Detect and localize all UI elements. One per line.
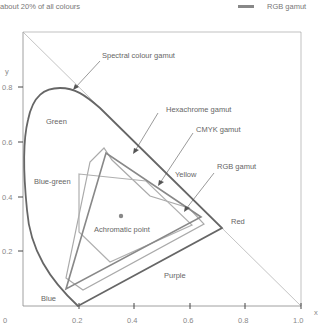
achromatic-point-marker — [119, 214, 123, 218]
y-tick-0.2: 0.2 — [2, 247, 12, 256]
x-tick-0.4: 0.4 — [127, 316, 137, 325]
label-spectral: Spectral colour gamut — [102, 51, 176, 60]
x-tick-0.2: 0.2 — [72, 316, 82, 325]
arrowheads — [73, 84, 190, 212]
label-cmyk: CMYK gamut — [196, 125, 242, 134]
label-achromatic: Achromatic point — [94, 225, 151, 234]
label-hexachrome: Hexachrome gamut — [166, 105, 232, 114]
y-tick-0.6: 0.6 — [2, 138, 12, 147]
x-tick-0.6: 0.6 — [183, 316, 193, 325]
y-tick-0.8: 0.8 — [2, 83, 12, 92]
chromaticity-chart: 0.8 0.6 0.4 0.2 y 0 0.2 0.4 0.6 0.8 1.0 … — [0, 0, 318, 331]
label-purple: Purple — [164, 271, 186, 280]
x-tick-1.0: 1.0 — [293, 316, 303, 325]
label-yellow: Yellow — [175, 170, 197, 179]
label-red: Red — [231, 217, 245, 226]
x-tick-0: 0 — [3, 316, 7, 325]
label-green: Green — [46, 117, 67, 126]
y-axis-label: y — [5, 67, 9, 76]
label-rgb: RGB gamut — [217, 162, 257, 171]
y-tick-0.4: 0.4 — [2, 193, 12, 202]
x-axis-label: x — [314, 308, 318, 317]
y-ticks — [18, 87, 23, 251]
x-tick-0.8: 0.8 — [238, 316, 248, 325]
label-blue-green: Blue-green — [34, 177, 71, 186]
label-blue: Blue — [41, 294, 56, 303]
